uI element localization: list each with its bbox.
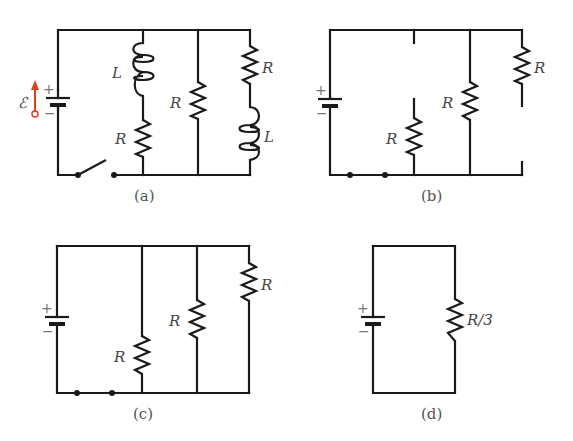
branch-1 [135,246,149,393]
inductor-icon [240,107,260,160]
resistor-label: R [113,348,125,366]
plus-sign: + [41,300,53,316]
minus-sign: − [358,323,370,339]
resistor-icon [242,263,256,301]
resistor-icon [463,82,477,120]
resistor-icon [191,82,205,119]
resistor-label: R [114,130,126,148]
resistor-icon [515,47,529,84]
resistor-icon [135,336,149,374]
resistor-label: R [261,59,273,77]
terminal-dot [347,172,353,178]
inductor-label: L [263,128,274,146]
circuit-figure: + − ℰ L R R [0,0,573,441]
plus-sign: + [357,300,369,316]
plus-sign: + [315,82,327,98]
minus-sign: − [316,105,328,121]
left-and-bottom-wire [330,106,522,175]
resistor-label: R [168,312,180,330]
terminal-dot [382,172,388,178]
minus-sign: − [42,323,54,339]
caption-a: (a) [134,187,155,205]
terminal-dot [74,390,80,396]
resistor-icon [243,46,257,84]
inductor-label: L [111,64,122,82]
panel-c: + − R R R (c) [41,246,272,423]
panel-a: + − ℰ L R R [18,30,274,205]
branch-2 [463,30,477,175]
resistor-icon [190,300,204,338]
caption-c: (c) [133,405,153,423]
panel-d: + − R/3 (d) [357,246,493,423]
resistor-icon [407,118,421,155]
left-wire-lower [58,108,78,175]
resistor-label: R [385,130,397,148]
terminal-dot [109,390,115,396]
resistor-label: R [169,94,181,112]
emf-label: ℰ [18,94,29,112]
minus-sign: − [44,105,56,121]
panel-b: + − R R R (b) [315,30,545,205]
top-and-right-wire [373,246,455,299]
resistor-label: R [533,59,545,77]
resistor-label: R [260,276,272,294]
caption-d: (d) [421,405,442,423]
caption-b: (b) [421,187,442,205]
left-and-bottom-wire [57,324,249,393]
branch-2 [190,246,204,393]
branch-3 [242,246,256,393]
resistor-icon [448,299,462,341]
resistor-label: R [441,94,453,112]
branch-3 [240,30,260,175]
branch-1 [133,30,153,175]
resistor-label: R/3 [466,311,493,329]
open-switch-icon[interactable] [75,160,117,178]
branch-3-open [515,30,529,175]
inductor-icon [133,43,153,96]
emf-arrow-icon [31,80,39,117]
branch-2 [191,30,205,175]
plus-sign: + [43,81,55,97]
resistor-icon [136,120,150,157]
branch-1-open [407,30,421,175]
left-bottom-wire [373,324,455,393]
